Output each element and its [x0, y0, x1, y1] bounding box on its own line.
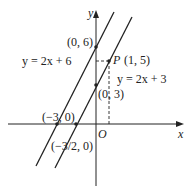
origin-label: O	[98, 127, 107, 141]
y-intercept-label-line2: (0, 3)	[98, 87, 124, 101]
x-intercept-label-line2: (−3/2, 0)	[51, 139, 93, 153]
point-P-name: P	[112, 53, 121, 67]
y-axis-arrow-icon	[93, 10, 99, 18]
y-axis-label: y	[87, 6, 94, 20]
x-intercept-label-line1: (−3, 0)	[42, 110, 75, 124]
point-0-6	[94, 45, 98, 49]
coordinate-diagram: y x O (0, 6) y = 2x + 6 (−3, 0) (0, 3) y…	[0, 0, 189, 190]
point-P	[107, 59, 111, 63]
x-axis-label: x	[177, 127, 184, 141]
equation-label-line1: y = 2x + 6	[22, 54, 72, 68]
point-P-coords: (1, 5)	[124, 53, 150, 67]
equation-label-line2: y = 2x + 3	[117, 72, 167, 86]
y-intercept-label-line1: (0, 6)	[67, 35, 93, 49]
